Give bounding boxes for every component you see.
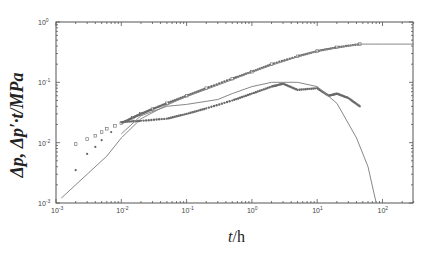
svg-text:102: 102 [378, 205, 389, 214]
svg-text:10-3: 10-3 [51, 205, 63, 214]
axis-ticks [56, 22, 414, 203]
svg-text:10-1: 10-1 [182, 205, 194, 214]
svg-text:10-3: 10-3 [38, 198, 50, 207]
model-curve [61, 44, 414, 198]
svg-text:10-1: 10-1 [38, 77, 50, 86]
svg-text:10-2: 10-2 [116, 205, 128, 214]
chart-plot: 10-310-210-110010110210-310-210-1100 [0, 0, 425, 253]
svg-text:100: 100 [38, 17, 49, 26]
x-axis-label: t/h [228, 228, 245, 246]
model-curve [121, 82, 376, 203]
plot-frame [56, 22, 413, 203]
svg-text:10-2: 10-2 [38, 138, 50, 147]
svg-text:100: 100 [247, 205, 258, 214]
svg-text:101: 101 [312, 205, 323, 214]
y-axis-label: Δp, Δp′·t/MPa [2, 40, 32, 210]
data-series [61, 43, 414, 203]
